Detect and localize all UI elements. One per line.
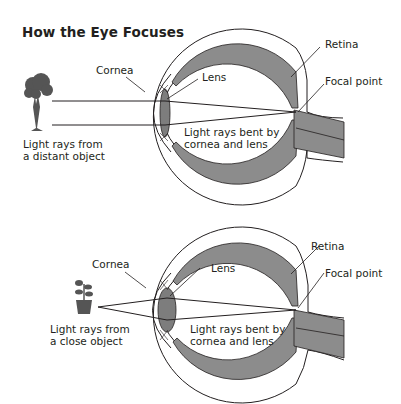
label-object-close-2: a close object xyxy=(50,335,123,347)
label-object-close-1: Light rays from xyxy=(50,323,130,335)
label-lens-close: Lens xyxy=(211,262,235,274)
eye-distant xyxy=(24,29,344,205)
label-rays-distant-1: Light rays bent by xyxy=(184,126,279,138)
retina-band xyxy=(172,44,298,108)
lens-shape xyxy=(160,89,170,137)
tree-icon xyxy=(24,73,53,131)
label-focal-point-close: Focal point xyxy=(325,267,382,279)
label-rays-close-2: cornea and lens xyxy=(190,335,274,347)
label-object-distant-2: a distant object xyxy=(23,150,105,162)
light-rays xyxy=(52,101,296,125)
label-lens-distant: Lens xyxy=(202,71,226,83)
label-focal-point-distant: Focal point xyxy=(325,75,382,87)
label-cornea-close: Cornea xyxy=(92,258,129,270)
label-rays-distant-2: cornea and lens xyxy=(184,138,268,150)
potted-plant-icon xyxy=(75,280,93,314)
label-cornea-distant: Cornea xyxy=(96,64,133,76)
eye-close xyxy=(75,227,344,403)
label-retina-close: Retina xyxy=(311,240,344,252)
label-rays-close-1: Light rays bent by xyxy=(190,323,285,335)
label-retina-distant: Retina xyxy=(325,38,358,50)
label-object-distant-1: Light rays from xyxy=(23,138,103,150)
